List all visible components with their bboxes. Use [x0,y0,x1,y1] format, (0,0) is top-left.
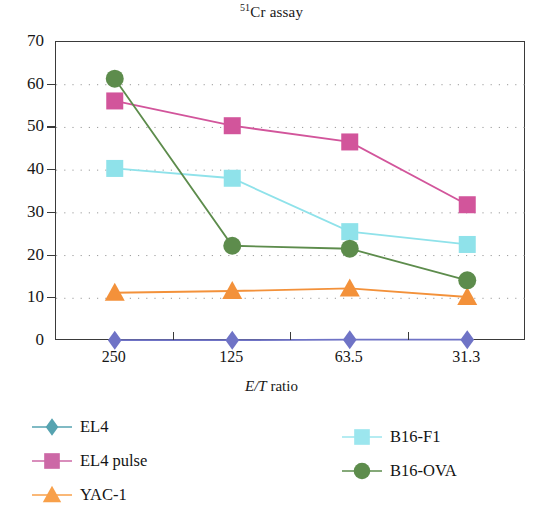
data-point [341,223,358,240]
data-point [106,92,123,109]
y-tick-mark [47,169,55,170]
data-point [459,196,476,213]
data-point [108,331,122,350]
legend-marker-triangle-icon [30,482,74,508]
series-line-b16-f1 [115,168,468,244]
y-tick-mark [47,126,55,127]
chart-title-main: Cr assay [250,4,303,20]
x-tick-label: 31.3 [431,348,501,366]
y-tick-mark [47,297,55,298]
x-axis-label: E/T ratio [0,378,543,395]
data-point [223,237,241,255]
y-tick-label: 70 [0,32,44,49]
x-axis-label-italic: E/T [245,378,267,394]
series-line-b16-ova [115,79,468,281]
legend-label: YAC-1 [74,485,127,505]
legend-marker-square-icon [340,424,384,450]
y-tick-label: 0 [0,331,44,348]
data-point [341,240,359,258]
x-tick-label: 125 [196,348,266,366]
legend-item-el4-pulse[interactable]: EL4 pulse [30,446,147,476]
legend-label: B16-F1 [384,427,440,447]
chart-figure: 51Cr assay 706050403020100 25012563.531.… [0,0,543,519]
y-tick-mark [47,255,55,256]
x-tick-mark [408,332,409,340]
data-point [340,278,360,296]
y-tick-label: 20 [0,246,44,263]
legend-marker-square-icon [30,448,74,474]
y-tick-label: 40 [0,160,44,177]
y-tick-label: 10 [0,288,44,305]
legend-item-b16-f1[interactable]: B16-F1 [340,422,440,452]
data-point [106,70,124,88]
legend-item-el4[interactable]: EL4 [30,412,108,442]
legend-label: EL4 [74,417,108,437]
x-tick-label: 63.5 [314,348,384,366]
legend-marker-diamond-icon [30,414,74,440]
x-axis-label-rest: ratio [267,378,298,394]
legend-label: B16-OVA [384,461,457,481]
data-point [458,271,476,289]
plot-series-canvas [56,42,526,341]
legend-marker-circle-icon [340,458,384,484]
series-line-yac-1 [115,288,468,297]
y-tick-label: 60 [0,75,44,92]
chart-title-superscript: 51 [240,2,250,13]
y-tick-label: 30 [0,203,44,220]
legend-item-yac-1[interactable]: YAC-1 [30,480,127,510]
chart-title: 51Cr assay [0,4,543,21]
data-point [460,330,474,349]
data-point [343,330,357,349]
data-point [459,236,476,253]
plot-area [55,41,525,340]
y-tick-mark [47,84,55,85]
chart-legend: EL4EL4 pulseYAC-1B16-F1B16-OVA [30,412,530,516]
legend-item-b16-ova[interactable]: B16-OVA [340,456,457,486]
x-tick-mark [290,332,291,340]
data-point [224,170,241,187]
x-tick-mark [173,332,174,340]
y-tick-mark [47,212,55,213]
data-point [341,133,358,150]
y-tick-label: 50 [0,117,44,134]
data-point [106,160,123,177]
data-point [224,117,241,134]
data-point [225,331,239,350]
legend-label: EL4 pulse [74,451,147,471]
x-tick-label: 250 [79,348,149,366]
